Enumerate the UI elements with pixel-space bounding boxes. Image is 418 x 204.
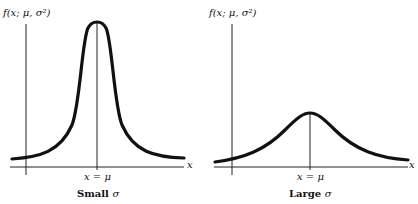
left-mean-label: x = μ [84,171,111,182]
right-y-axis-label: f(x; μ, σ²) [209,7,256,18]
right-caption-word: Large [289,188,321,199]
right-mean-label: x = μ [297,171,324,182]
left-caption-symbol: σ [112,188,119,199]
left-x-axis-label: x [187,159,193,170]
left-panel-axes [10,22,184,175]
right-caption-symbol: σ [325,188,332,199]
right-panel-axes [214,24,408,175]
small-sigma-curve [12,22,184,159]
large-sigma-curve [215,113,408,162]
left-y-axis-label: f(x; μ, σ²) [3,7,50,18]
left-caption-word: Small [77,188,109,199]
left-caption: Small σ [77,188,119,199]
right-caption: Large σ [289,188,331,199]
right-x-axis-label: x [409,159,415,170]
normal-distribution-figure [0,0,418,204]
